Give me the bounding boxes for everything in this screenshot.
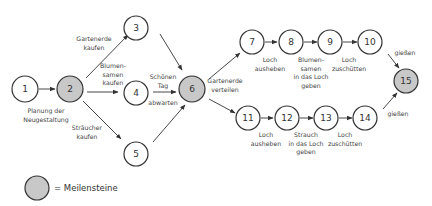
node-12: 12 xyxy=(275,106,299,130)
network-diagram: 1 2 3 4 5 6 7 8 9 10 11 12 13 14 15 Plan… xyxy=(0,0,432,206)
node-14: 14 xyxy=(353,106,377,130)
edge-10-15 xyxy=(388,54,399,68)
edge-5-6 xyxy=(153,105,185,142)
node-1: 1 xyxy=(12,76,38,102)
node-15-milestone: 15 xyxy=(394,69,418,93)
milestone-legend-icon xyxy=(25,176,49,200)
label-giessen-bottom: gießen xyxy=(387,110,408,118)
svg-text:3: 3 xyxy=(133,23,139,33)
svg-text:15: 15 xyxy=(400,76,411,86)
label-blumensamen-loch: Blumen-samenin das Lochgeben xyxy=(294,56,329,90)
edge-6-7 xyxy=(209,53,240,79)
svg-text:11: 11 xyxy=(242,113,253,123)
svg-text:13: 13 xyxy=(320,113,331,123)
legend: = Meilensteine xyxy=(25,176,118,200)
label-schoenen-tag-abwarten: SchönenTagabwarten xyxy=(148,73,177,106)
node-9: 9 xyxy=(318,30,342,54)
label-loch-ausheben-top: Lochausheben xyxy=(255,56,285,72)
edge-6-11 xyxy=(209,99,235,113)
svg-text:6: 6 xyxy=(189,84,195,94)
node-6-milestone: 6 xyxy=(179,76,205,102)
label-loch-zuschuetten-top: Lochzuschütten xyxy=(332,56,366,72)
node-7: 7 xyxy=(240,30,264,54)
label-loch-zuschuetten-bottom: Lochzuschütten xyxy=(328,131,362,147)
node-3: 3 xyxy=(124,16,148,40)
svg-text:12: 12 xyxy=(281,113,292,123)
svg-text:1: 1 xyxy=(22,84,28,94)
label-strauch-loch: Strauchin das Lochgeben xyxy=(289,131,324,156)
node-2-milestone: 2 xyxy=(57,76,83,102)
edge-labels: Planung derNeugestaltung Gartenerdekaufe… xyxy=(23,35,415,156)
svg-text:14: 14 xyxy=(359,113,371,123)
edge-3-6 xyxy=(160,34,182,70)
label-gartenerde-kaufen: Gartenerdekaufen xyxy=(76,35,111,51)
edge-14-15 xyxy=(383,93,397,109)
svg-text:9: 9 xyxy=(327,37,333,47)
node-4: 4 xyxy=(124,81,148,105)
label-planung: Planung derNeugestaltung xyxy=(23,107,69,124)
node-13: 13 xyxy=(314,106,338,130)
node-10: 10 xyxy=(358,30,382,54)
svg-text:7: 7 xyxy=(249,37,255,47)
svg-text:4: 4 xyxy=(133,88,139,98)
label-gartenerde-verteilen: Gartenerdeverteilen xyxy=(207,77,242,93)
node-11: 11 xyxy=(236,106,260,130)
label-blumensamen-kaufen: Blumen-samenkaufen xyxy=(100,62,126,86)
label-straeucher-kaufen: Sträucherkaufen xyxy=(72,124,103,140)
svg-text:2: 2 xyxy=(67,84,73,94)
node-5: 5 xyxy=(124,142,148,166)
label-giessen-top: gießen xyxy=(394,49,415,57)
legend-text: = Meilensteine xyxy=(54,183,118,193)
svg-text:5: 5 xyxy=(133,149,139,159)
label-loch-ausheben-bottom: Lochausheben xyxy=(251,131,281,147)
svg-text:10: 10 xyxy=(364,37,376,47)
node-8: 8 xyxy=(279,30,303,54)
svg-text:8: 8 xyxy=(288,37,294,47)
